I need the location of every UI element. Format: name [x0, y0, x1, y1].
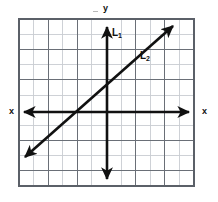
line-label-L1-subscript: 1 [118, 32, 122, 39]
line-label-L2: L2 [140, 51, 150, 61]
coordinate-plane-svg [0, 0, 218, 202]
figure-canvas: y x x L1 L2 [0, 0, 218, 202]
y-axis-tick-mark [93, 11, 98, 12]
y-axis-label: y [103, 4, 108, 13]
line-label-L1: L1 [112, 28, 122, 38]
x-axis-label-right: x [202, 107, 207, 116]
x-axis-label-left: x [9, 107, 14, 116]
line-label-L2-subscript: 2 [146, 55, 150, 62]
